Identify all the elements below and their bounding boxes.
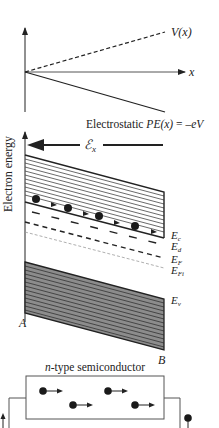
v-label: V(x) [171,25,192,39]
electron [32,195,40,203]
conduction-band [25,155,164,238]
potential-plot: V(x) x Electrostatic PE(x) = –eV [25,25,205,131]
right-wire [164,398,180,428]
band-diagram: Electron energy ℰx [1,132,184,367]
point-b-label: B [158,353,166,367]
wire-electron [184,414,192,422]
ev-label: Ev [170,294,182,308]
field-arrowhead-icon [27,139,44,151]
valence-band [25,262,164,350]
potential-line [25,32,165,72]
potential-energy-line [25,72,165,112]
point-a-label: A [18,316,27,330]
drift-arrow-icon [114,220,120,225]
electron [131,222,139,230]
intrinsic-fermi-level-line [25,232,164,268]
field-label: ℰx [84,137,96,154]
left-wire [9,398,26,428]
semiconductor-sample: n-type semiconductor [1,361,192,428]
semiconductor-title: n-type semiconductor [45,361,145,374]
semiconductor-box [26,376,164,419]
current-arrow-icon [1,413,6,419]
electron-energy-label: Electron energy [1,136,15,212]
electron [95,212,103,220]
electron [64,204,72,212]
pe-label: Electrostatic PE(x) = –eV [86,118,205,131]
band-diagram-figure: V(x) x Electrostatic PE(x) = –eV Electro… [0,0,219,428]
x-axis-label: x [188,65,195,79]
